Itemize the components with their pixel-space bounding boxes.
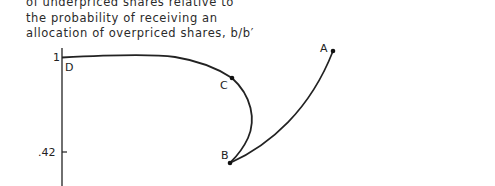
point-c-label: C	[220, 79, 228, 92]
y-tick-label-042: .42	[38, 146, 56, 159]
point-b-label: B	[221, 149, 229, 162]
curve-c-to-b	[230, 78, 252, 163]
point-c-marker	[230, 76, 235, 81]
point-a-marker	[331, 49, 336, 54]
point-a-label: A	[320, 42, 328, 55]
point-d-label: D	[65, 61, 73, 74]
diagram-canvas: 1 .42 A B C D	[0, 0, 495, 186]
y-tick-label-1: 1	[53, 51, 60, 64]
curve-b-to-a	[230, 51, 333, 163]
curve-d-to-c	[62, 55, 232, 78]
